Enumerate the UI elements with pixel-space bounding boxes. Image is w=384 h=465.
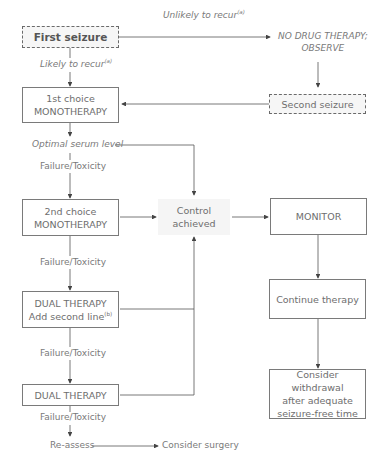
likely-text: Likely to recur [40, 59, 104, 69]
reassess-label: Re-assess [50, 440, 94, 450]
node-dual-therapy-add-second-line: DUAL THERAPY Add second line(b) [22, 291, 119, 328]
node-no-drug-therapy: NO DRUG THERAPY; OBSERVE [278, 30, 368, 54]
first-seizure-label: First seizure [34, 31, 108, 44]
node-second-seizure: Second seizure [269, 94, 366, 114]
optimal-text: Optimal serum level [32, 139, 123, 149]
failure-text-4: Failure/Toxicity [40, 412, 106, 422]
dual-therapy-label: DUAL THERAPY [34, 389, 106, 402]
node-dual-therapy: DUAL THERAPY [22, 384, 119, 406]
withdrawal-line3: seizure-free time [277, 407, 358, 420]
failure-text-3: Failure/Toxicity [40, 348, 106, 358]
second-choice-line1: 2nd choice [45, 205, 97, 218]
node-2nd-choice-monotherapy: 2nd choice MONOTHERAPY [22, 199, 119, 236]
first-choice-line1: 1st choice [46, 92, 95, 105]
node-continue-therapy: Continue therapy [269, 279, 366, 319]
likely-sup: (a) [104, 58, 112, 64]
label-failure-toxicity-4: Failure/Toxicity [40, 412, 106, 422]
no-drug-line1: NO DRUG THERAPY; [278, 30, 368, 42]
node-first-seizure: First seizure [22, 26, 119, 48]
dual-add-sup: (b) [104, 310, 112, 316]
withdrawal-line1: Consider withdrawal [270, 368, 365, 394]
label-unlikely-to-recur: Unlikely to recur(a) [163, 10, 245, 20]
node-consider-withdrawal: Consider withdrawal after adequate seizu… [269, 369, 366, 419]
label-optimal-serum-level: Optimal serum level [32, 139, 123, 149]
label-failure-toxicity-3: Failure/Toxicity [40, 348, 106, 358]
label-likely-to-recur: Likely to recur(a) [40, 59, 112, 69]
continue-therapy-label: Continue therapy [276, 293, 359, 306]
label-failure-toxicity-2: Failure/Toxicity [40, 257, 106, 267]
unlikely-text: Unlikely to recur [163, 10, 237, 20]
failure-text-1: Failure/Toxicity [40, 161, 106, 171]
surgery-label: Consider surgery [162, 440, 239, 450]
second-choice-line2: MONOTHERAPY [34, 218, 107, 231]
dual-add-line1: DUAL THERAPY [34, 297, 106, 310]
control-line2: achieved [172, 217, 215, 230]
first-choice-line2: MONOTHERAPY [34, 105, 107, 118]
edge-optimal-control [115, 145, 194, 195]
dual-add-line2: Add second line [29, 311, 104, 322]
withdrawal-line2: after adequate [282, 394, 353, 407]
unlikely-sup: (a) [237, 9, 245, 15]
second-seizure-label: Second seizure [282, 98, 354, 111]
node-control-achieved: Control achieved [158, 199, 230, 235]
node-reassess: Re-assess [50, 440, 94, 450]
failure-text-2: Failure/Toxicity [40, 257, 106, 267]
node-1st-choice-monotherapy: 1st choice MONOTHERAPY [22, 87, 119, 123]
no-drug-line2: OBSERVE [278, 42, 368, 54]
label-failure-toxicity-1: Failure/Toxicity [40, 161, 106, 171]
node-monitor: MONITOR [270, 198, 367, 235]
monitor-label: MONITOR [296, 210, 341, 223]
node-consider-surgery: Consider surgery [162, 440, 239, 450]
control-line1: Control [177, 204, 211, 217]
